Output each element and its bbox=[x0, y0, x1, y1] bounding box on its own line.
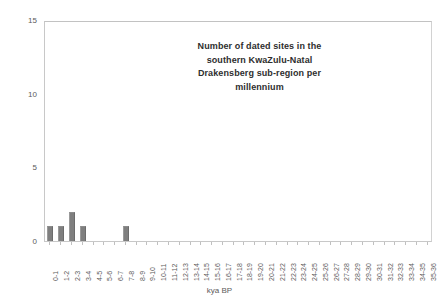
x-tick-label: 15-16 bbox=[214, 263, 221, 281]
x-tick-label: 25-26 bbox=[322, 263, 329, 281]
x-tick-label: 4-5 bbox=[96, 271, 103, 281]
x-tick-label: 9-10 bbox=[149, 267, 156, 281]
x-tick-label: 8-9 bbox=[139, 271, 146, 281]
bar bbox=[123, 226, 129, 241]
bars-layer bbox=[45, 22, 431, 241]
x-tick-label: 14-15 bbox=[203, 263, 210, 281]
bar bbox=[58, 226, 64, 241]
x-tick-label: 27-28 bbox=[343, 263, 350, 281]
x-tick-label: 6-7 bbox=[117, 271, 124, 281]
x-tick-label: 31-32 bbox=[387, 263, 394, 281]
x-tick-label: 16-17 bbox=[225, 263, 232, 281]
y-tick-label: 15 bbox=[28, 17, 37, 25]
x-tick-label: 5-6 bbox=[106, 271, 113, 281]
x-tick-label: 22-23 bbox=[290, 263, 297, 281]
x-tick-label: 10-11 bbox=[160, 264, 167, 281]
x-tick-label: 17-18 bbox=[236, 263, 243, 281]
x-tick-label: 20-21 bbox=[268, 263, 275, 281]
x-tick-label: 12-13 bbox=[182, 263, 189, 281]
x-tick-label: 7-8 bbox=[128, 271, 135, 281]
x-axis-tick-labels: 0-11-22-33-44-55-66-77-88-99-1010-1111-1… bbox=[44, 245, 432, 285]
x-tick-label: 0-1 bbox=[52, 271, 59, 281]
x-tick-label: 30-31 bbox=[376, 263, 383, 281]
x-tick-label: 23-24 bbox=[300, 263, 307, 281]
x-tick-label: 32-33 bbox=[397, 263, 404, 281]
x-tick-label: 13-14 bbox=[193, 263, 200, 281]
x-tick-label: 35-36 bbox=[430, 263, 437, 281]
x-tick-label: 24-25 bbox=[311, 263, 318, 281]
x-tick-label: 26-27 bbox=[333, 263, 340, 281]
x-tick-label: 19-20 bbox=[257, 263, 264, 281]
x-axis-title: kya BP bbox=[0, 286, 439, 295]
x-tick-label: 29-30 bbox=[365, 263, 372, 281]
x-tick-label: 34-35 bbox=[419, 263, 426, 281]
bar bbox=[47, 226, 53, 241]
bar bbox=[80, 226, 86, 241]
x-tick-label: 33-34 bbox=[408, 263, 415, 281]
plot-area: Number of dated sites in thesouthern Kwa… bbox=[44, 21, 432, 242]
y-tick-label: 0 bbox=[33, 238, 37, 246]
x-tick-label: 11-12 bbox=[171, 264, 178, 281]
x-tick-label: 1-2 bbox=[63, 271, 70, 281]
x-tick-label: 18-19 bbox=[246, 263, 253, 281]
bar bbox=[69, 212, 75, 241]
y-axis: 051015 bbox=[0, 14, 44, 246]
chart-figure: 051015 Number of dated sites in thesouth… bbox=[0, 0, 439, 305]
x-tick-label: 3-4 bbox=[85, 271, 92, 281]
x-tick-label: 28-29 bbox=[354, 263, 361, 281]
y-tick-label: 10 bbox=[28, 91, 37, 99]
y-tick-label: 5 bbox=[33, 164, 37, 172]
x-tick-label: 2-3 bbox=[74, 271, 81, 281]
x-tick-label: 21-22 bbox=[279, 263, 286, 281]
